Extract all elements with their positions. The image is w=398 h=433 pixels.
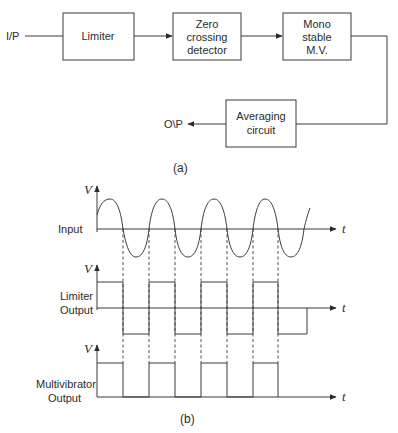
limiter-label-line1: Limiter — [60, 290, 93, 302]
zero-crossing-detector-block[interactable]: Zero crossing detector — [173, 13, 241, 60]
input-label: Input — [58, 223, 82, 235]
input-v-label: V — [84, 182, 94, 197]
multivibrator-v-label: V — [84, 341, 94, 356]
caption-b: (b) — [180, 412, 195, 426]
limiter-t-label: t — [342, 300, 346, 315]
zcd-label-line1: Zero — [196, 18, 219, 30]
monostable-block[interactable]: Mono stable M.V. — [283, 13, 351, 60]
multivibrator-label-line1: Multivibrator — [36, 378, 96, 390]
diagram-canvas: I/P Limiter Zero crossing detector Mono … — [0, 0, 398, 433]
monostable-label-line2: stable — [302, 31, 331, 43]
zcd-label-line3: detector — [187, 44, 227, 56]
input-waveform-plot: V t Input — [58, 182, 346, 257]
multivibrator-waveform-plot: V t Multivibrator Output — [36, 341, 346, 404]
limiter-waveform-plot: V t Limiter Output — [60, 261, 346, 334]
monostable-label-line1: Mono — [303, 18, 331, 30]
zcd-label-line2: crossing — [187, 31, 228, 43]
monostable-label-line3: M.V. — [306, 44, 328, 56]
multivibrator-label-line2: Output — [48, 392, 81, 404]
averaging-label-line2: circuit — [247, 124, 276, 136]
block-diagram: I/P Limiter Zero crossing detector Mono … — [6, 13, 387, 175]
input-label: I/P — [6, 30, 19, 42]
limiter-block-label: Limiter — [81, 30, 114, 42]
output-label: O\P — [164, 118, 183, 130]
input-t-label: t — [342, 221, 346, 236]
multivibrator-t-label: t — [342, 389, 346, 404]
limiter-v-label: V — [84, 261, 94, 276]
averaging-circuit-block[interactable]: Averaging circuit — [226, 100, 296, 147]
limiter-label-line2: Output — [60, 304, 93, 316]
multivibrator-pulse-train — [97, 363, 278, 397]
caption-a: (a) — [173, 161, 188, 175]
averaging-label-line1: Averaging — [236, 110, 285, 122]
limiter-block[interactable]: Limiter — [63, 13, 134, 60]
waveforms: V t Input V t Limiter Output V t Multivi… — [36, 182, 346, 426]
